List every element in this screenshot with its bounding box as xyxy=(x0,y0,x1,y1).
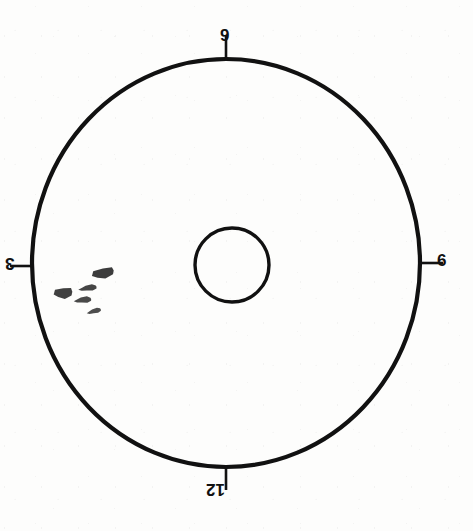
outer-circle xyxy=(32,59,420,467)
particle-sliver-mid xyxy=(78,284,97,293)
clock-dial-svg xyxy=(0,0,473,531)
dial-label-top: 9 xyxy=(220,27,229,44)
particle-sliver-bottom xyxy=(86,307,101,316)
dial-label-left: 3 xyxy=(5,255,14,272)
debris-particle-group xyxy=(53,266,115,316)
particle-diamond-upper xyxy=(91,266,115,281)
particle-sliver-lower xyxy=(73,296,91,304)
dial-label-right: 6 xyxy=(437,252,446,269)
diagram-canvas: 9 6 12 3 xyxy=(0,0,473,531)
particle-diamond-left xyxy=(53,287,73,300)
dial-label-bottom: 12 xyxy=(206,481,225,498)
inner-circle xyxy=(195,228,269,302)
